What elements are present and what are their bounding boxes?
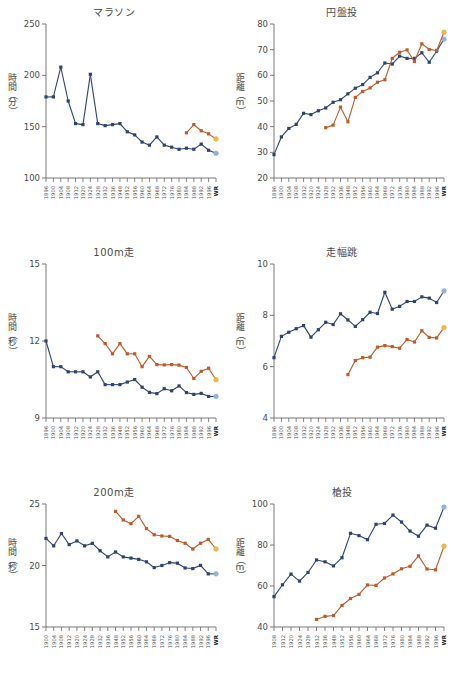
x-tick-label: 1964 [143, 634, 149, 648]
data-point [129, 557, 132, 560]
data-point [383, 576, 386, 579]
data-point [376, 312, 379, 315]
x-tick-label: 1948 [345, 426, 351, 439]
data-point [177, 384, 180, 387]
x-tick-label: 1988 [419, 426, 425, 439]
x-tick-label: 1924 [87, 425, 93, 439]
data-point [398, 51, 401, 54]
x-tick-label: 1976 [397, 186, 403, 199]
x-tick-label: 1924 [297, 634, 303, 648]
plot-area-longjump: 4681018961900190419081912192019241928193… [228, 240, 456, 480]
data-point [425, 567, 428, 570]
series-line [342, 533, 351, 557]
x-tick-label: 1972 [389, 426, 395, 439]
data-point [191, 547, 194, 550]
x-tick-label: 1948 [117, 186, 123, 199]
x-tick-label: 1952 [352, 186, 358, 199]
data-point [405, 300, 408, 303]
data-point [287, 331, 290, 334]
data-point [376, 346, 379, 349]
data-point [126, 130, 129, 133]
y-tick-label: 150 [24, 122, 40, 132]
x-tick-label: 1980 [176, 186, 182, 199]
data-point [163, 363, 166, 366]
x-tick-label: 1964 [365, 634, 371, 648]
data-point [75, 539, 78, 542]
x-tick-label: 1912 [301, 186, 307, 199]
chart-panel-javelin: 槍投 4060801001908191219201924192819321936… [228, 480, 456, 693]
x-tick-label: 1968 [373, 635, 379, 648]
data-point [192, 123, 195, 126]
chart-panel-200m: 200m走 1520251900190419081912192019241928… [0, 480, 228, 693]
data-point [306, 571, 309, 574]
x-tick-label: 1988 [190, 635, 196, 648]
data-point [207, 572, 210, 575]
data-point [361, 83, 364, 86]
series-line [385, 292, 392, 309]
x-tick-label: 1972 [161, 426, 167, 439]
data-point [332, 323, 335, 326]
data-point [408, 529, 411, 532]
data-point [287, 127, 290, 130]
data-point [153, 533, 156, 536]
data-point [368, 76, 371, 79]
data-point [91, 542, 94, 545]
data-point [148, 355, 151, 358]
data-point [272, 356, 275, 359]
series-line [436, 546, 445, 570]
data-point [170, 363, 173, 366]
data-point [272, 595, 275, 598]
data-point [118, 383, 121, 386]
x-tick-label: 1992 [426, 186, 432, 199]
x-tick-label: 1980 [399, 635, 405, 648]
data-point [289, 573, 292, 576]
data-point [83, 544, 86, 547]
x-tick-label: WR [441, 185, 447, 196]
data-point [272, 153, 275, 156]
data-point [339, 312, 342, 315]
x-tick-label: WR [441, 425, 447, 436]
data-point [111, 383, 114, 386]
y-tick-label: 8 [263, 310, 268, 320]
data-point [324, 126, 327, 129]
x-tick-label: 1988 [191, 186, 197, 199]
x-tick-label: 1984 [411, 425, 417, 439]
data-point [163, 387, 166, 390]
data-point [104, 124, 107, 127]
data-point [59, 365, 62, 368]
x-tick-label: 1948 [117, 426, 123, 439]
data-point [309, 336, 312, 339]
data-point [111, 352, 114, 355]
data-point [428, 297, 431, 300]
series-line [135, 354, 142, 367]
x-tick-label: 1924 [82, 634, 88, 648]
x-tick-label: 1952 [352, 426, 358, 439]
data-point [361, 90, 364, 93]
data-point [118, 342, 121, 345]
x-tick-label: 1896 [43, 186, 49, 199]
x-tick-label: 1936 [110, 186, 116, 199]
data-point [163, 144, 166, 147]
data-point [315, 558, 318, 561]
data-point [192, 148, 195, 151]
y-tick-label: 80 [257, 19, 268, 29]
data-point [413, 340, 416, 343]
x-tick-label: 1956 [132, 186, 138, 199]
data-point [140, 386, 143, 389]
x-tick-label: 1960 [136, 635, 142, 648]
x-tick-label: 1972 [161, 186, 167, 199]
data-point [199, 542, 202, 545]
series-line [83, 74, 90, 124]
x-tick-label: 1996 [433, 635, 439, 648]
y-tick-label: 30 [257, 147, 268, 157]
data-point [332, 564, 335, 567]
x-tick-label: WR [213, 634, 219, 645]
data-point [200, 392, 203, 395]
x-tick-label: 1960 [139, 426, 145, 439]
plot-area-100m: 9121518961900190419081912192019241928193… [0, 240, 228, 480]
data-point [435, 336, 438, 339]
x-tick-label: 1964 [374, 185, 380, 199]
x-tick-label: 1900 [50, 426, 56, 439]
data-point [383, 61, 386, 64]
y-tick-label: 100 [24, 173, 40, 183]
